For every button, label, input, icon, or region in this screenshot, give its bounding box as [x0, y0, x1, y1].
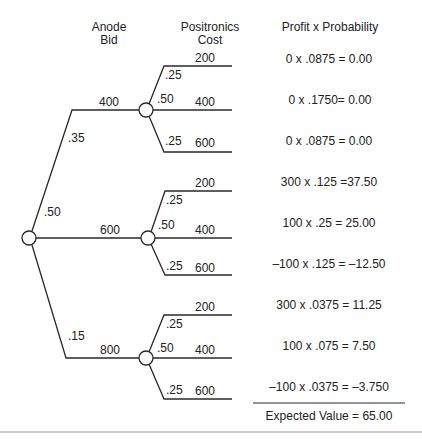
outcome-probability-800-400: .50 [157, 342, 174, 355]
outcome-probability-800-200: .25 [166, 318, 183, 331]
branch-probability-800: .15 [68, 330, 85, 343]
header-positronics-cost-line2: Cost [170, 34, 250, 47]
branch-line-bid-800 [32, 245, 139, 358]
outcome-cost-600-600: 600 [195, 262, 215, 275]
outcome-line-800-600 [149, 364, 232, 399]
bid-label-800: 800 [100, 344, 120, 357]
chance-node-bid-800 [139, 351, 153, 365]
outcome-cost-800-600: 600 [195, 385, 215, 398]
outcome-cost-400-400: 400 [195, 96, 215, 109]
outcome-cost-400-600: 600 [195, 137, 215, 150]
outcome-probability-600-400: .50 [158, 219, 175, 232]
calc-600-600: –100 x .125 = –12.50 [229, 258, 422, 271]
outcome-probability-400-200: .25 [165, 69, 182, 82]
expected-value: Expected Value = 65.00 [229, 410, 422, 423]
bid-label-600: 600 [100, 224, 120, 237]
chance-node-bid-600 [141, 231, 155, 245]
outcome-cost-400-200: 200 [195, 52, 215, 65]
calc-800-200: 300 x .0375 = 11.25 [229, 299, 422, 312]
header-profit-probability: Profit x Probability [255, 21, 405, 34]
outcome-probability-400-400: .50 [157, 93, 174, 106]
calc-600-400: 100 x .25 = 25.00 [229, 217, 422, 230]
outcome-cost-800-400: 400 [195, 344, 215, 357]
calc-800-600: –100 x .0375 = –3.750 [229, 381, 422, 394]
outcome-probability-400-600: .25 [165, 135, 182, 148]
calc-400-200: 0 x .0875 = 0.00 [229, 53, 422, 66]
calc-400-400: 0 x .1750= 0.00 [230, 94, 422, 107]
calc-800-400: 100 x .075 = 7.50 [229, 340, 422, 353]
chance-node-bid-400 [139, 103, 153, 117]
calc-600-200: 300 x .125 =37.50 [229, 176, 422, 189]
calc-400-600: 0 x .0875 = 0.00 [229, 135, 422, 148]
root-decision-node [22, 231, 36, 245]
branch-probability-400: .35 [68, 132, 85, 145]
outcome-cost-600-400: 400 [195, 224, 215, 237]
header-anode-bid: Anode Bid [88, 21, 130, 47]
outcome-line-400-600 [149, 116, 232, 152]
branch-probability-600: .50 [44, 206, 61, 219]
header-positronics-cost: Positronics Cost [170, 21, 250, 47]
bid-label-400: 400 [99, 96, 119, 109]
outcome-probability-600-600: .25 [166, 260, 183, 273]
outcome-cost-800-200: 200 [195, 301, 215, 314]
outcome-probability-800-600: .25 [166, 384, 183, 397]
outcome-line-600-600 [151, 244, 232, 275]
outcome-cost-600-200: 200 [195, 177, 215, 190]
header-anode-bid-line2: Bid [88, 34, 130, 47]
outcome-probability-600-200: .25 [166, 194, 183, 207]
